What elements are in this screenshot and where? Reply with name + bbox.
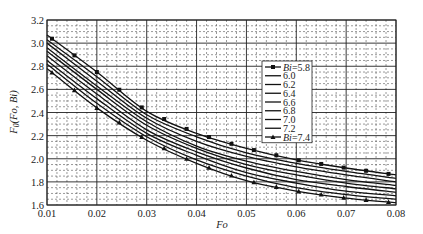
y-tick: 2.0 bbox=[31, 154, 44, 165]
y-tick: 3.2 bbox=[31, 15, 44, 26]
y-tick: 1.8 bbox=[31, 177, 44, 188]
y-axis-label: F0(Fo, Bi) bbox=[8, 90, 21, 135]
x-tick-labels: 0.010.020.030.040.050.060.070.08 bbox=[38, 208, 405, 219]
y-tick: 2.6 bbox=[31, 84, 44, 95]
major-grid bbox=[47, 20, 396, 205]
x-tick: 0.07 bbox=[337, 208, 355, 219]
y-tick: 1.6 bbox=[31, 200, 44, 211]
x-tick: 0.03 bbox=[138, 208, 156, 219]
svg-text:Bi=7.4: Bi=7.4 bbox=[283, 132, 310, 143]
x-tick: 0.05 bbox=[237, 208, 255, 219]
y-tick-labels: 1.61.82.02.22.42.62.83.03.2 bbox=[31, 15, 45, 211]
x-tick: 0.04 bbox=[187, 208, 206, 219]
y-tick: 2.8 bbox=[31, 61, 44, 72]
x-axis-label: Fo bbox=[215, 219, 228, 230]
y-tick: 3.0 bbox=[31, 38, 44, 49]
curve-7.0 bbox=[47, 60, 396, 195]
chart: 0.010.020.030.040.050.060.070.08 1.61.82… bbox=[0, 0, 423, 234]
legend: Bi=5.86.06.26.46.66.87.07.2Bi=7.4 bbox=[262, 61, 312, 143]
y-tick: 2.4 bbox=[31, 108, 45, 119]
y-tick: 2.2 bbox=[31, 131, 44, 142]
x-tick: 0.02 bbox=[88, 208, 106, 219]
x-tick: 0.08 bbox=[387, 208, 405, 219]
x-tick: 0.06 bbox=[287, 208, 305, 219]
